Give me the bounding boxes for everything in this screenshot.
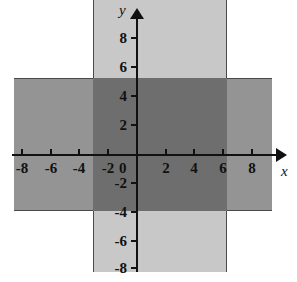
coordinate-plane-graph: x y 0 -8-6-4-22468 8642-2-4-6-8 bbox=[0, 0, 297, 282]
x-tick-label: -6 bbox=[38, 159, 64, 177]
x-axis-line bbox=[12, 154, 280, 156]
y-tick-label: -4 bbox=[101, 203, 127, 221]
y-tick-label: -6 bbox=[101, 232, 127, 250]
x-tick-mark bbox=[193, 149, 195, 156]
x-tick-mark bbox=[222, 149, 224, 156]
x-tick-label: -8 bbox=[9, 159, 35, 177]
x-axis-arrow-icon bbox=[276, 148, 287, 162]
x-axis-label: x bbox=[281, 163, 288, 180]
y-tick-label: 8 bbox=[101, 29, 127, 47]
y-axis-line bbox=[136, 18, 138, 272]
x-tick-label: -4 bbox=[66, 159, 92, 177]
y-tick-mark bbox=[131, 124, 138, 126]
y-tick-mark bbox=[131, 95, 138, 97]
y-tick-mark bbox=[131, 240, 138, 242]
x-tick-label: 4 bbox=[181, 159, 207, 177]
x-tick-label: 6 bbox=[210, 159, 236, 177]
x-tick-mark bbox=[107, 149, 109, 156]
x-tick-label: 2 bbox=[153, 159, 179, 177]
y-tick-mark bbox=[131, 37, 138, 39]
x-tick-mark bbox=[165, 149, 167, 156]
x-tick-mark bbox=[21, 149, 23, 156]
x-tick-mark bbox=[251, 149, 253, 156]
y-tick-mark bbox=[131, 267, 138, 269]
x-tick-mark bbox=[50, 149, 52, 156]
y-tick-label: 4 bbox=[101, 87, 127, 105]
x-tick-label: 8 bbox=[239, 159, 265, 177]
y-tick-mark bbox=[131, 66, 138, 68]
y-tick-label: -2 bbox=[101, 174, 127, 192]
y-tick-mark bbox=[131, 211, 138, 213]
y-tick-label: 6 bbox=[101, 58, 127, 76]
y-tick-label: -8 bbox=[101, 259, 127, 277]
y-tick-label: 2 bbox=[101, 116, 127, 134]
y-axis-arrow-icon bbox=[130, 8, 144, 19]
y-axis-label: y bbox=[119, 2, 126, 19]
x-tick-mark bbox=[78, 149, 80, 156]
y-tick-mark bbox=[131, 182, 138, 184]
